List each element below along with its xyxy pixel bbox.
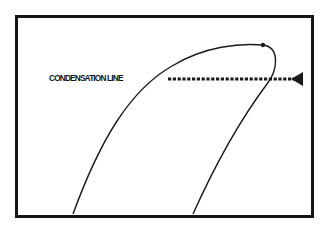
- dome-curve: [73, 44, 276, 214]
- arrowhead-icon: [291, 72, 303, 86]
- peak-point-icon: [261, 43, 265, 47]
- condensation-line-label: CONDENSATION LINE: [49, 73, 123, 83]
- diagram-canvas: [0, 0, 331, 227]
